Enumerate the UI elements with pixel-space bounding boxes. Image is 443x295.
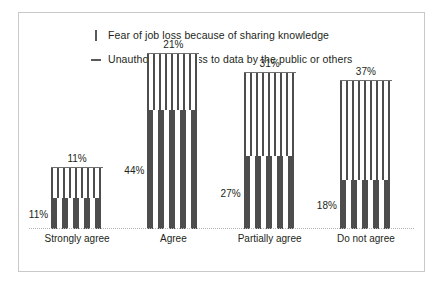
bar-value-label-side: 44%: [124, 164, 144, 175]
bar-segment-fear-of-job-loss[interactable]: [147, 53, 199, 110]
bar-group-partially-agree: 31% 27%: [222, 85, 318, 229]
bar-value-label-top: 37%: [356, 66, 376, 77]
bar-segment-unauthorized-access[interactable]: 27%: [244, 156, 296, 229]
bar-segment-unauthorized-access[interactable]: 44%: [147, 110, 199, 229]
legend-item-label: Unauthorized access to data by the publi…: [108, 53, 352, 65]
bar-segment-fear-of-job-loss[interactable]: [340, 80, 392, 180]
bar-group-do-not-agree: 37% 18%: [318, 85, 414, 229]
category-label-strongly-agree: Strongly agree: [29, 233, 125, 257]
legend-item-fear-of-job-loss[interactable]: Fear of job loss because of sharing know…: [19, 23, 424, 47]
bar-segment-unauthorized-access[interactable]: 11%: [51, 198, 103, 229]
stacked-bar[interactable]: 31% 27%: [244, 72, 296, 229]
bars-group: 11% 11% 21% 44% 31%: [29, 85, 414, 229]
category-label-do-not-agree: Do not agree: [318, 233, 414, 257]
bar-segment-fear-of-job-loss[interactable]: [51, 167, 103, 198]
bar-value-label-side: 27%: [221, 187, 241, 198]
legend-item-label: Fear of job loss because of sharing know…: [108, 29, 329, 41]
stacked-bar[interactable]: 11% 11%: [51, 167, 103, 229]
stacked-bar[interactable]: 21% 44%: [147, 53, 199, 229]
plot-area: 11% 11% 21% 44% 31%: [19, 85, 424, 271]
bar-group-agree: 21% 44%: [125, 85, 221, 229]
bar-value-label-top: 11%: [67, 153, 86, 164]
category-label-agree: Agree: [125, 233, 221, 257]
bar-value-label-side: 11%: [29, 208, 48, 219]
bar-group-strongly-agree: 11% 11%: [29, 85, 125, 229]
stacked-bar[interactable]: 37% 18%: [340, 80, 392, 229]
chart-legend: Fear of job loss because of sharing know…: [19, 23, 424, 71]
chart-container: Fear of job loss because of sharing know…: [18, 12, 425, 272]
category-axis-labels: Strongly agree Agree Partially agree Do …: [29, 233, 414, 257]
legend-marker-horizontal-dash-icon: [89, 52, 103, 66]
category-axis-line: [29, 228, 414, 229]
category-label-partially-agree: Partially agree: [222, 233, 318, 257]
bar-value-label-top: 21%: [163, 39, 183, 50]
bar-value-label-top: 31%: [260, 58, 280, 69]
bar-segment-unauthorized-access[interactable]: 18%: [340, 180, 392, 229]
bar-segment-fear-of-job-loss[interactable]: [244, 72, 296, 156]
legend-marker-vertical-bar-icon: [89, 28, 103, 42]
bar-value-label-side: 18%: [317, 199, 337, 210]
